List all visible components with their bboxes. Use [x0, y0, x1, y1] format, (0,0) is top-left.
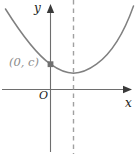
x-axis-label: x	[125, 97, 132, 109]
x-axis-arrow-icon	[123, 86, 132, 93]
y-intercept-point-marker	[48, 61, 54, 67]
y-axis-label: y	[34, 2, 41, 14]
parabola-figure: y x O (0, c)	[0, 0, 138, 154]
y-intercept-label: (0, c)	[9, 57, 39, 69]
plot-canvas	[0, 0, 138, 154]
origin-label: O	[39, 90, 48, 101]
y-axis-arrow-icon	[47, 4, 54, 13]
